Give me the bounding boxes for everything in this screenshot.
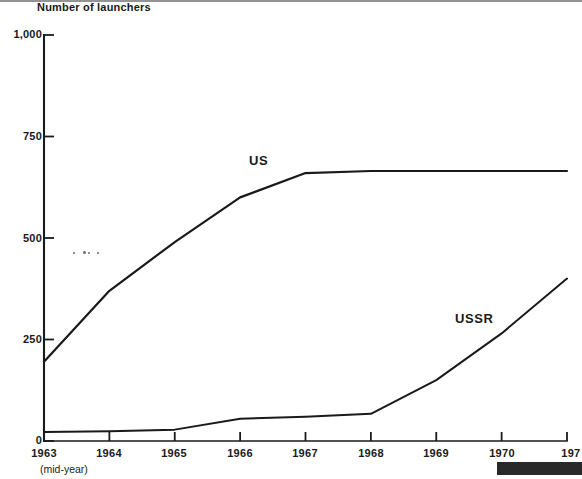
y-axis-ticks	[44, 35, 54, 441]
series-line-ussr	[44, 279, 567, 432]
series-line-us	[44, 171, 567, 362]
chart-figure: Number of launchers 1,000 750 500 250 0 …	[0, 0, 582, 479]
chart-plot-svg	[0, 0, 582, 479]
axis-lines	[44, 35, 567, 441]
x-axis-ticks	[44, 432, 567, 441]
